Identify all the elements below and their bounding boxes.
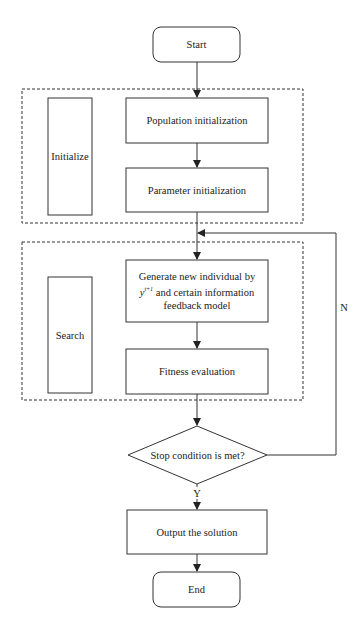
generate-label-line1: Generate new individual by: [139, 270, 255, 283]
no-branch-label: N: [337, 300, 351, 314]
generate-label: Generate new individual by yt+1 and cert…: [126, 260, 268, 322]
fitness-label: Fitness evaluation: [126, 349, 268, 394]
generate-variable-superscript: t+1: [144, 286, 153, 292]
generate-label-line2-rest: and certain information: [153, 287, 254, 298]
decision-label: Stop condition is met?: [128, 426, 267, 484]
end-label: End: [153, 572, 240, 607]
parameter-init-label: Parameter initialization: [126, 168, 268, 212]
generate-label-line3: feedback model: [164, 299, 231, 312]
search-group-label: Search: [48, 277, 92, 393]
generate-label-line2: yt+1 and certain information: [140, 283, 255, 299]
initialize-group-label: Initialize: [48, 98, 92, 215]
output-label: Output the solution: [127, 510, 267, 554]
yes-branch-label: Y: [191, 487, 203, 499]
start-label: Start: [153, 27, 240, 62]
population-init-label: Population initialization: [126, 98, 268, 143]
